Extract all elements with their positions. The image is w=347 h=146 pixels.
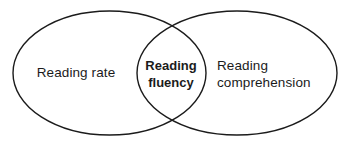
venn-label-intersection: Reading fluency: [140, 57, 202, 91]
venn-label-left-set: Reading rate: [20, 65, 132, 81]
venn-diagram: Reading rate Reading fluency Reading com…: [0, 0, 347, 146]
venn-label-right-set: Reading comprehension: [217, 57, 335, 91]
